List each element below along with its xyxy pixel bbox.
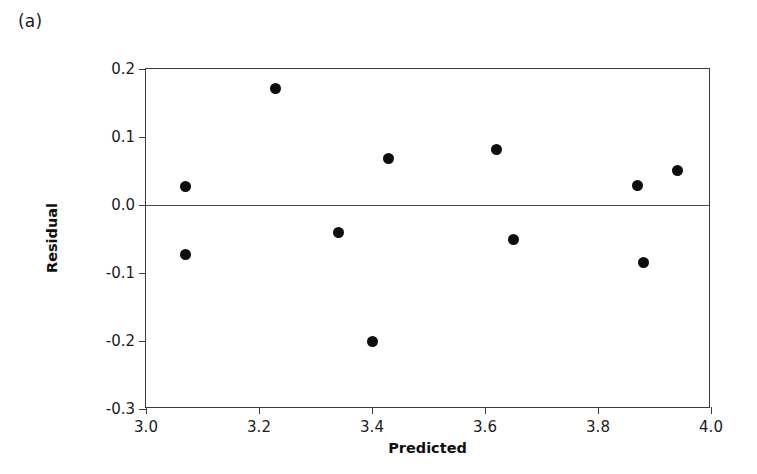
y-axis-tick-label: -0.2	[106, 332, 135, 350]
x-axis-tick-label: 3.4	[360, 418, 384, 436]
x-axis-tick	[598, 407, 599, 414]
data-point	[638, 257, 649, 268]
data-point	[672, 165, 683, 176]
data-point	[383, 153, 394, 164]
data-point	[270, 83, 281, 94]
y-axis-tick-label: 0.2	[111, 60, 135, 78]
y-axis-tick	[139, 137, 146, 138]
data-point	[491, 144, 502, 155]
plot-area: 0.20.10.0-0.1-0.2-0.33.03.23.43.63.84.0	[146, 69, 709, 407]
y-axis-tick-label: 0.0	[111, 196, 135, 214]
y-axis-tick-label: 0.1	[111, 128, 135, 146]
residual-vs-predicted-scatter-plot: (a) 0.20.10.0-0.1-0.2-0.33.03.23.43.63.8…	[0, 0, 757, 474]
y-axis-tick	[139, 205, 146, 206]
data-point	[367, 336, 378, 347]
x-axis-tick-label: 3.8	[586, 418, 610, 436]
x-axis-tick-label: 4.0	[699, 418, 723, 436]
panel-label: (a)	[18, 13, 42, 30]
x-axis-tick	[146, 407, 147, 414]
data-point	[508, 234, 519, 245]
y-axis-tick	[139, 409, 146, 410]
x-axis-tick-label: 3.6	[473, 418, 497, 436]
x-axis-title: Predicted	[145, 440, 710, 456]
x-axis-tick	[485, 407, 486, 414]
data-point	[180, 249, 191, 260]
y-axis-tick	[139, 273, 146, 274]
y-axis-tick-label: -0.3	[106, 400, 135, 418]
x-axis-tick-label: 3.2	[247, 418, 271, 436]
x-axis-tick	[372, 407, 373, 414]
data-point	[632, 180, 643, 191]
plot-frame: 0.20.10.0-0.1-0.2-0.33.03.23.43.63.84.0	[145, 68, 710, 408]
data-point	[180, 181, 191, 192]
x-axis-tick-label: 3.0	[134, 418, 158, 436]
zero-residual-reference-line	[146, 205, 709, 206]
y-axis-tick	[139, 341, 146, 342]
y-axis-tick-label: -0.1	[106, 264, 135, 282]
y-axis-tick	[139, 69, 146, 70]
x-axis-tick	[259, 407, 260, 414]
data-point	[333, 227, 344, 238]
y-axis-title: Residual	[44, 203, 60, 273]
x-axis-tick	[711, 407, 712, 414]
